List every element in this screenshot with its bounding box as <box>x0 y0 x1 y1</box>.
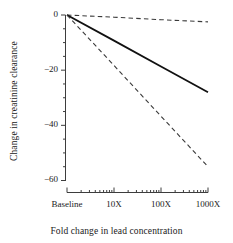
series-line-1 <box>67 15 208 92</box>
x-tick-label-100x: 100X <box>134 199 188 209</box>
x-tick-label-10x: 10X <box>87 199 141 209</box>
y-tick-label-60: −60 <box>20 174 58 184</box>
x-axis-ticks <box>67 188 208 193</box>
x-axis-title: Fold change in lead concentration <box>0 226 233 236</box>
y-axis-title: Change in creatinine clearance <box>9 11 19 191</box>
figure: Change in creatinine clearance Fold chan… <box>0 0 233 243</box>
y-tick-label-20: −20 <box>20 64 58 74</box>
x-tick-label-1000x: 1000X <box>181 199 233 209</box>
y-axis-ticks <box>61 15 66 181</box>
series-line-2 <box>67 15 208 167</box>
chart-series-group <box>67 15 208 167</box>
y-tick-label-40: −40 <box>20 119 58 129</box>
x-tick-label-baseline: Baseline <box>40 199 94 209</box>
series-line-0 <box>67 15 208 22</box>
y-tick-label-0: 0 <box>20 9 58 19</box>
